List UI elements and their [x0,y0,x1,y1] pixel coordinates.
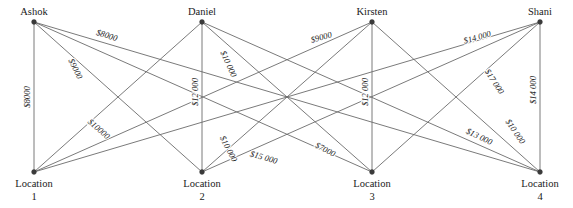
node-dot-shani[interactable] [538,20,543,25]
edge-cost-label-kirsten-loc3: $12 000 [360,77,370,106]
edge-cost-label-daniel-loc3: $10 000 [218,49,239,79]
edge-cost-label-shani-loc3: $17 000 [483,67,507,96]
edge-cost-label-ashok-loc3: $9000 [66,57,85,81]
node-dot-kirsten[interactable] [370,20,375,25]
node-dot-loc3[interactable] [370,170,375,175]
edge-cost-label-ashok-loc1: $8000 [22,86,32,108]
edge-cost-labels-layer: $8000$10000$9000$8000$12 000$10 000$9000… [22,27,538,166]
node-dot-loc2[interactable] [200,170,205,175]
location-number-loc3: 3 [369,191,374,202]
node-dot-ashok[interactable] [32,20,37,25]
edge-cost-label-kirsten-loc2: $10 000 [218,134,240,164]
graph-canvas: AshokDanielKirstenShaniLocation1Location… [0,0,573,208]
edge-cost-label-ashok-loc2: $10000 [86,117,113,142]
person-name-label-daniel: Daniel [188,6,216,17]
bipartite-assignment-diagram: AshokDanielKirstenShaniLocation1Location… [0,0,573,208]
location-name-label-loc1: Location [15,178,53,189]
node-dot-loc1[interactable] [32,170,37,175]
edge-cost-label-kirsten-loc4b: $10 000 [504,117,528,146]
person-name-label-kirsten: Kirsten [357,6,389,17]
person-name-label-shani: Shani [528,6,552,17]
node-dot-loc4[interactable] [538,170,543,175]
edge-cost-label-shani-loc2: $13 000 [465,126,495,148]
edge-cost-label-shani-loc1b: $14 000 [462,28,492,46]
edge-cost-label-daniel-loc2: $12 000 [190,77,200,106]
location-number-loc2: 2 [199,191,204,202]
location-name-label-loc4: Location [521,178,559,189]
edge-cost-label-shani-loc4: $14 000 [528,75,538,104]
person-name-label-ashok: Ashok [20,6,48,17]
edge-cost-label-kirsten-loc1: $9000 [309,29,333,45]
location-number-loc1: 1 [31,191,36,202]
edge-cost-label-daniel-loc3b: $7000 [314,140,338,159]
edge-cost-label-shani-loc1: $15 000 [249,148,279,166]
location-number-loc4: 4 [537,191,543,202]
location-name-label-loc3: Location [353,178,391,189]
node-dot-daniel[interactable] [200,20,205,25]
location-name-label-loc2: Location [183,178,221,189]
